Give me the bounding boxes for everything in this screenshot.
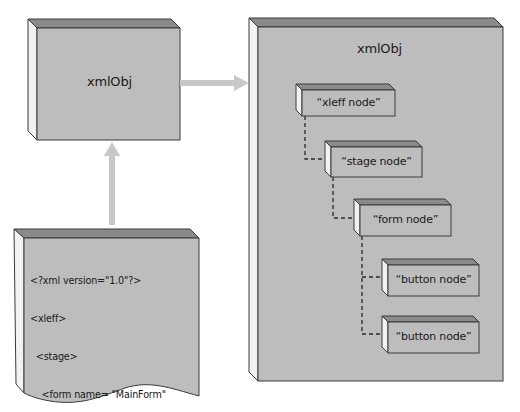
node-label-stage: “stage node” [331,155,422,168]
xml-code-block: <?xml version="1.0"?> <xleff> <stage> <f… [30,250,192,412]
arrow-right-icon [180,75,249,91]
code-line: <xleff> [30,313,192,326]
target-box-label: xmlObj [357,41,402,56]
source-box-label: xmlObj [87,74,132,89]
node-label-button-1: “button node” [388,273,479,286]
arrow-up-icon [104,142,120,225]
code-line: <form name= "MainForm" [30,389,192,402]
node-label-form: “form node” [360,213,451,226]
node-label-xleff: “xleff node” [302,96,395,109]
code-line: <stage> [30,351,192,364]
code-line: <?xml version="1.0"?> [30,275,192,288]
node-label-button-2: “button node” [388,330,479,343]
